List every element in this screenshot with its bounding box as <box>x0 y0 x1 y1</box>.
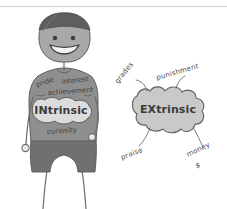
eye-right <box>71 36 75 40</box>
hand-right <box>89 134 96 141</box>
eye-left <box>53 36 57 40</box>
intrinsic-blob-label: INtrinsic <box>34 104 87 117</box>
diagram-canvas: INtrinsic pride interest achievement cur… <box>0 0 227 209</box>
extrinsic-blob-label: EXtrinsic <box>140 103 196 116</box>
hand-left <box>22 144 29 151</box>
